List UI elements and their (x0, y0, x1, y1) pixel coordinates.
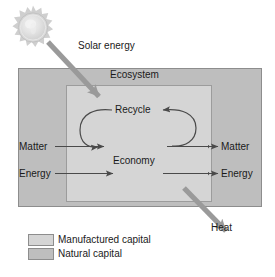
matter-in-label: Matter (19, 141, 47, 152)
matter-out-label: Matter (221, 141, 249, 152)
legend-swatch-natural-capital (28, 248, 54, 260)
economy-label: Economy (113, 155, 155, 166)
ecosystem-label: Ecosystem (110, 69, 159, 80)
energy-out-label: Energy (221, 168, 253, 179)
legend-swatch-manufactured-capital (28, 234, 54, 246)
manufactured-capital-box (67, 86, 212, 202)
recycle-label: Recycle (115, 104, 151, 115)
legend-label-manufactured-capital: Manufactured capital (58, 234, 151, 245)
sun-icon (12, 6, 53, 48)
heat-label: Heat (211, 222, 232, 233)
solar-energy-label: Solar energy (78, 40, 135, 51)
energy-in-label: Energy (19, 168, 51, 179)
diagram-figure: Solar energy Ecosystem Recycle Economy M… (0, 0, 275, 277)
legend-label-natural-capital: Natural capital (58, 248, 122, 259)
